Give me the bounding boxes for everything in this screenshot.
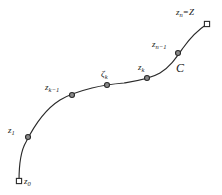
partition-point-markers bbox=[16, 21, 209, 183]
partition-point-marker-z1 bbox=[26, 135, 31, 140]
partition-point-marker-zetak bbox=[105, 83, 110, 88]
partition-point-marker-zk-1 bbox=[70, 93, 75, 98]
partition-point-marker-z0 bbox=[16, 178, 21, 183]
point-label-zk-1: zk−1 bbox=[45, 83, 59, 92]
point-label-zetak: ζk bbox=[101, 70, 108, 79]
contour-curve-path bbox=[19, 24, 207, 181]
point-label-z0: z0 bbox=[24, 177, 31, 186]
point-label-zk: zk bbox=[138, 63, 145, 72]
partition-point-marker-zk bbox=[145, 76, 150, 81]
contour-diagram-canvas bbox=[0, 0, 222, 195]
contour-diagram-figure: z0z1zk−1ζkzkzn−1zn=Z C bbox=[0, 0, 222, 195]
partition-point-marker-zn bbox=[204, 21, 209, 26]
point-label-zn-1: zn−1 bbox=[152, 40, 167, 49]
point-label-z1: z1 bbox=[8, 126, 15, 135]
curve-label-C: C bbox=[176, 62, 184, 74]
partition-point-marker-zn-1 bbox=[176, 51, 181, 56]
point-label-zn: zn=Z bbox=[176, 8, 194, 17]
